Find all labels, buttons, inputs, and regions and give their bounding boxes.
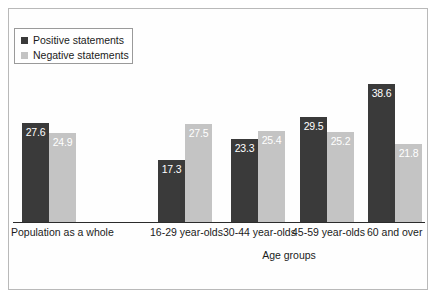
x-axis-title-text: Age groups — [262, 249, 316, 261]
x-axis-title: Age groups — [0, 249, 438, 261]
bar-negative-population: 24.9 — [49, 133, 76, 222]
bar-positive-population: 27.6 — [22, 123, 49, 222]
bar-negative-45-59: 25.2 — [327, 132, 354, 222]
legend-item-negative: Negative statements — [21, 48, 126, 62]
chart-legend: Positive statements Negative statements — [14, 28, 133, 64]
bar-positive-60-over: 38.6 — [368, 84, 395, 222]
bar-positive-16-29: 17.3 — [158, 160, 185, 222]
bar-value-label: 21.8 — [395, 147, 422, 159]
legend-swatch-positive — [21, 37, 28, 44]
bar-value-label: 17.3 — [158, 163, 185, 175]
bar-value-label: 27.6 — [22, 126, 49, 138]
bar-chart: Positive statements Negative statements … — [0, 0, 438, 298]
bar-value-label: 29.5 — [300, 120, 327, 132]
bar-value-label: 25.2 — [327, 135, 354, 147]
x-tick-label-16-29: 16-29 year-olds — [150, 226, 223, 239]
x-tick-label-population: Population as a whole — [11, 226, 114, 239]
bar-value-label: 25.4 — [258, 134, 285, 146]
legend-label-positive: Positive statements — [33, 35, 124, 46]
bar-positive-30-44: 23.3 — [231, 139, 258, 222]
x-tick-label-60-over: 60 and over — [367, 226, 422, 239]
legend-swatch-negative — [21, 52, 28, 59]
bar-negative-60-over: 21.8 — [395, 144, 422, 222]
x-tick-label-45-59: 45-59 year-olds — [292, 226, 365, 239]
bar-value-label: 24.9 — [49, 136, 76, 148]
bar-value-label: 23.3 — [231, 142, 258, 154]
bar-positive-45-59: 29.5 — [300, 117, 327, 222]
bar-negative-16-29: 27.5 — [185, 124, 212, 222]
x-tick-label-30-44: 30-44 year-olds — [223, 226, 296, 239]
bar-negative-30-44: 25.4 — [258, 131, 285, 222]
bar-value-label: 27.5 — [185, 127, 212, 139]
x-axis-line — [13, 222, 425, 223]
legend-item-positive: Positive statements — [21, 33, 126, 47]
legend-label-negative: Negative statements — [33, 50, 129, 61]
bar-value-label: 38.6 — [368, 87, 395, 99]
